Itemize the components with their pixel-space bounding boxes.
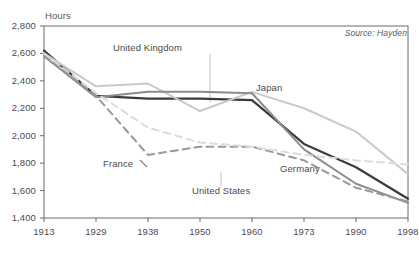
series-label-germany: Germany xyxy=(280,163,320,174)
x-tick-label: 1950 xyxy=(174,226,226,237)
x-axis-ticks xyxy=(44,218,408,222)
series-line-france xyxy=(44,55,408,202)
annotation-leader-line-france xyxy=(140,160,147,167)
x-tick-label: 1913 xyxy=(18,226,70,237)
y-tick-label: 1,800 xyxy=(0,157,36,168)
series-label-united-states: United States xyxy=(192,185,250,196)
x-tick-label: 1938 xyxy=(122,226,174,237)
series-line-united-states xyxy=(44,53,408,164)
y-tick-label: 2,800 xyxy=(0,20,36,31)
x-tick-label: 1998 xyxy=(382,226,419,237)
series-label-united-kingdom: United Kingdom xyxy=(113,42,182,53)
x-tick-label: 1990 xyxy=(330,226,382,237)
x-tick-label: 1929 xyxy=(70,226,122,237)
y-tick-label: 2,000 xyxy=(0,130,36,141)
y-tick-label: 2,400 xyxy=(0,75,36,86)
y-tick-label: 1,600 xyxy=(0,185,36,196)
series-label-france: France xyxy=(103,158,133,169)
series-line-united-kingdom xyxy=(44,51,408,199)
annotation-leader-lines xyxy=(140,54,221,186)
y-axis-title: Hours xyxy=(45,10,71,21)
y-tick-label: 1,400 xyxy=(0,212,36,223)
series-lines xyxy=(44,51,408,203)
y-tick-label: 2,600 xyxy=(0,47,36,58)
y-tick-label: 2,200 xyxy=(0,102,36,113)
hours-worked-line-chart: Hours Source: Hayden 2,8002,6002,4002,20… xyxy=(0,0,419,253)
series-label-japan: Japan xyxy=(256,82,282,93)
series-line-japan xyxy=(44,53,408,174)
x-tick-label: 1973 xyxy=(278,226,330,237)
x-tick-label: 1960 xyxy=(226,226,278,237)
source-note: Source: Hayden xyxy=(345,28,407,38)
